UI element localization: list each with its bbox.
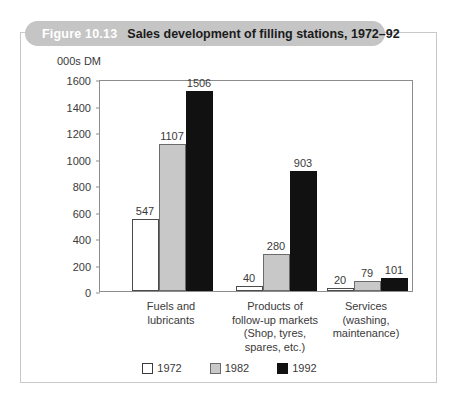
y-axis-tick-label: 1200 — [67, 128, 100, 140]
category-label-line: spares, etc.) — [232, 341, 318, 355]
category-label-line: Fuels and — [147, 300, 195, 314]
category-label-line: follow-up markets — [232, 314, 318, 328]
y-axis-tick-label: 1600 — [67, 75, 100, 87]
y-axis-tick-mark — [96, 81, 100, 82]
x-axis-category-label: Products offollow-up markets(Shop, tyres… — [232, 300, 318, 354]
bar-value-label: 903 — [294, 157, 312, 169]
y-axis-tick-mark — [96, 266, 100, 267]
legend-item-1972[interactable]: 1972 — [142, 362, 181, 374]
legend-swatch-icon — [142, 363, 153, 374]
bar-value-label: 1107 — [160, 130, 184, 142]
chart-legend: 197219821992 — [21, 362, 438, 374]
bar-value-label: 79 — [361, 267, 373, 279]
bar-value-label: 547 — [136, 205, 154, 217]
y-axis-unit-label: 000s DM — [57, 55, 101, 67]
y-axis-tick-label: 1400 — [67, 102, 100, 114]
chart-canvas: 000s DM 02004006008001000120014001600 54… — [21, 33, 438, 384]
y-axis-tick-mark — [96, 240, 100, 241]
bar-value-label: 40 — [243, 272, 255, 284]
category-label-line: (Shop, tyres, — [232, 327, 318, 341]
bar-1982-2 — [263, 254, 290, 291]
legend-label: 1972 — [157, 362, 181, 374]
legend-item-1992[interactable]: 1992 — [277, 362, 316, 374]
y-axis-tick-mark — [96, 160, 100, 161]
figure-title: Sales development of filling stations, 1… — [127, 27, 399, 41]
category-label-line: maintenance) — [333, 327, 400, 341]
bar-1982-1 — [159, 144, 186, 291]
category-label-line: Products of — [232, 300, 318, 314]
bar-1992-2 — [290, 171, 317, 291]
legend-item-1982[interactable]: 1982 — [210, 362, 249, 374]
y-axis-tick-mark — [96, 134, 100, 135]
bar-1972-1 — [132, 219, 159, 291]
legend-label: 1992 — [292, 362, 316, 374]
category-label-line: Services — [333, 300, 400, 314]
y-axis-tick-mark — [96, 187, 100, 188]
bar-value-label: 1506 — [187, 77, 211, 89]
bar-1972-3 — [327, 288, 354, 291]
x-axis-category-label: Fuels andlubricants — [147, 300, 195, 327]
bar-1992-1 — [186, 91, 213, 291]
legend-label: 1982 — [225, 362, 249, 374]
bar-1992-3 — [381, 278, 408, 291]
bar-value-label: 20 — [334, 274, 346, 286]
bar-value-label: 101 — [385, 264, 403, 276]
y-axis-tick-mark — [96, 107, 100, 108]
y-axis-tick-mark — [96, 293, 100, 294]
figure-number: Figure 10.13 — [42, 27, 117, 41]
category-label-line: lubricants — [147, 314, 195, 328]
category-label-line: (washing, — [333, 314, 400, 328]
figure-banner: Figure 10.13 Sales development of fillin… — [25, 21, 385, 46]
figure-frame: 000s DM 02004006008001000120014001600 54… — [20, 32, 437, 383]
y-axis-tick-label: 1000 — [67, 155, 100, 167]
x-axis-category-label: Services(washing,maintenance) — [333, 300, 400, 341]
bar-value-label: 280 — [267, 240, 285, 252]
plot-area: 02004006008001000120014001600 5471107150… — [99, 80, 413, 292]
legend-swatch-icon — [210, 363, 221, 374]
y-axis-tick-mark — [96, 213, 100, 214]
bar-1982-3 — [354, 281, 381, 291]
bar-1972-2 — [236, 286, 263, 291]
legend-swatch-icon — [277, 363, 288, 374]
